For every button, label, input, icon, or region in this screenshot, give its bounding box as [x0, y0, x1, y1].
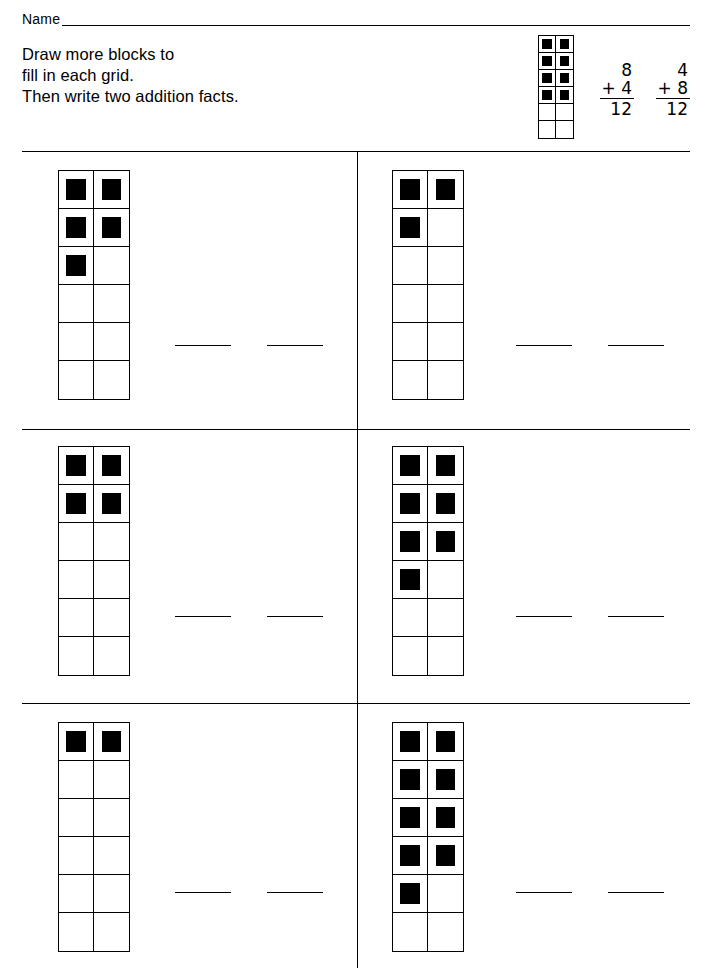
grid-cell-filled[interactable]: [59, 447, 94, 484]
grid-cell-filled[interactable]: [556, 70, 573, 86]
grid-cell-empty[interactable]: [59, 561, 94, 598]
grid-cell-empty[interactable]: [428, 285, 463, 322]
problem-5-answer-blank-2[interactable]: [267, 892, 323, 893]
problem-3-block-grid[interactable]: [58, 446, 130, 676]
grid-cell-empty[interactable]: [94, 599, 129, 636]
grid-cell-filled[interactable]: [94, 171, 129, 208]
grid-cell-empty[interactable]: [539, 121, 556, 138]
grid-cell-filled[interactable]: [94, 209, 129, 246]
grid-cell-empty[interactable]: [94, 523, 129, 560]
grid-cell-filled[interactable]: [393, 723, 428, 760]
grid-cell-filled[interactable]: [539, 87, 556, 103]
name-field[interactable]: Name: [22, 4, 690, 28]
problem-6-answer-blank-2[interactable]: [608, 892, 664, 893]
grid-cell-empty[interactable]: [428, 323, 463, 360]
grid-cell-empty[interactable]: [428, 247, 463, 284]
grid-cell-empty[interactable]: [59, 913, 94, 951]
grid-cell-filled[interactable]: [94, 723, 129, 760]
grid-cell-empty[interactable]: [393, 247, 428, 284]
grid-cell-filled[interactable]: [556, 53, 573, 69]
grid-cell-empty[interactable]: [94, 837, 129, 874]
grid-cell-filled[interactable]: [393, 561, 428, 598]
problem-6-block-grid[interactable]: [392, 722, 464, 952]
grid-cell-empty[interactable]: [428, 913, 463, 951]
grid-cell-filled[interactable]: [539, 70, 556, 86]
grid-cell-filled[interactable]: [556, 36, 573, 52]
grid-cell-empty[interactable]: [428, 209, 463, 246]
grid-cell-empty[interactable]: [393, 285, 428, 322]
grid-cell-filled[interactable]: [428, 485, 463, 522]
grid-cell-empty[interactable]: [428, 561, 463, 598]
grid-cell-filled[interactable]: [393, 447, 428, 484]
grid-cell-filled[interactable]: [428, 799, 463, 836]
problem-5-block-grid[interactable]: [58, 722, 130, 952]
problem-5-answer-blank-1[interactable]: [175, 892, 231, 893]
grid-cell-filled[interactable]: [428, 523, 463, 560]
grid-cell-empty[interactable]: [94, 561, 129, 598]
grid-cell-empty[interactable]: [94, 799, 129, 836]
grid-cell-empty[interactable]: [59, 637, 94, 675]
grid-cell-empty[interactable]: [428, 599, 463, 636]
grid-cell-empty[interactable]: [94, 913, 129, 951]
grid-cell-empty[interactable]: [393, 913, 428, 951]
problem-1-answer-blank-2[interactable]: [267, 345, 323, 346]
grid-cell-empty[interactable]: [94, 247, 129, 284]
grid-cell-empty[interactable]: [59, 323, 94, 360]
grid-cell-filled[interactable]: [393, 837, 428, 874]
grid-cell-empty[interactable]: [94, 637, 129, 675]
grid-cell-filled[interactable]: [428, 761, 463, 798]
grid-cell-empty[interactable]: [428, 637, 463, 675]
grid-cell-filled[interactable]: [539, 36, 556, 52]
problem-1-block-grid[interactable]: [58, 170, 130, 400]
grid-cell-empty[interactable]: [428, 361, 463, 399]
grid-cell-empty[interactable]: [393, 361, 428, 399]
grid-cell-empty[interactable]: [393, 637, 428, 675]
grid-cell-filled[interactable]: [59, 723, 94, 760]
grid-cell-empty[interactable]: [59, 523, 94, 560]
problem-4-answer-blank-2[interactable]: [608, 616, 664, 617]
grid-cell-filled[interactable]: [393, 761, 428, 798]
grid-cell-empty[interactable]: [94, 761, 129, 798]
problem-2-block-grid[interactable]: [392, 170, 464, 400]
grid-cell-empty[interactable]: [59, 599, 94, 636]
grid-cell-filled[interactable]: [94, 447, 129, 484]
grid-cell-filled[interactable]: [393, 875, 428, 912]
problem-3-answer-blank-1[interactable]: [175, 616, 231, 617]
problem-1-answer-blank-1[interactable]: [175, 345, 231, 346]
grid-cell-empty[interactable]: [94, 323, 129, 360]
grid-cell-filled[interactable]: [428, 723, 463, 760]
grid-cell-empty[interactable]: [393, 599, 428, 636]
grid-cell-filled[interactable]: [59, 209, 94, 246]
grid-cell-empty[interactable]: [59, 761, 94, 798]
grid-cell-empty[interactable]: [59, 285, 94, 322]
name-write-line[interactable]: [62, 25, 690, 26]
grid-cell-empty[interactable]: [94, 361, 129, 399]
grid-cell-empty[interactable]: [556, 104, 573, 120]
grid-cell-filled[interactable]: [428, 837, 463, 874]
problem-3-answer-blank-2[interactable]: [267, 616, 323, 617]
grid-cell-empty[interactable]: [94, 285, 129, 322]
problem-2-answer-blank-1[interactable]: [516, 345, 572, 346]
grid-cell-empty[interactable]: [59, 875, 94, 912]
grid-cell-filled[interactable]: [94, 485, 129, 522]
grid-cell-empty[interactable]: [556, 121, 573, 138]
grid-cell-filled[interactable]: [539, 53, 556, 69]
grid-cell-empty[interactable]: [59, 361, 94, 399]
grid-cell-filled[interactable]: [393, 485, 428, 522]
grid-cell-filled[interactable]: [59, 485, 94, 522]
problem-6-answer-blank-1[interactable]: [516, 892, 572, 893]
grid-cell-empty[interactable]: [393, 323, 428, 360]
grid-cell-filled[interactable]: [428, 171, 463, 208]
grid-cell-empty[interactable]: [59, 837, 94, 874]
grid-cell-filled[interactable]: [393, 799, 428, 836]
grid-cell-filled[interactable]: [59, 171, 94, 208]
grid-cell-empty[interactable]: [428, 875, 463, 912]
problem-4-answer-blank-1[interactable]: [516, 616, 572, 617]
problem-4-block-grid[interactable]: [392, 446, 464, 676]
grid-cell-filled[interactable]: [393, 209, 428, 246]
grid-cell-filled[interactable]: [428, 447, 463, 484]
grid-cell-filled[interactable]: [393, 523, 428, 560]
grid-cell-empty[interactable]: [539, 104, 556, 120]
grid-cell-filled[interactable]: [59, 247, 94, 284]
grid-cell-filled[interactable]: [393, 171, 428, 208]
